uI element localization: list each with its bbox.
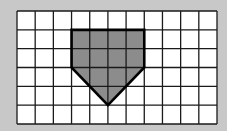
grid-diagram xyxy=(0,0,227,131)
